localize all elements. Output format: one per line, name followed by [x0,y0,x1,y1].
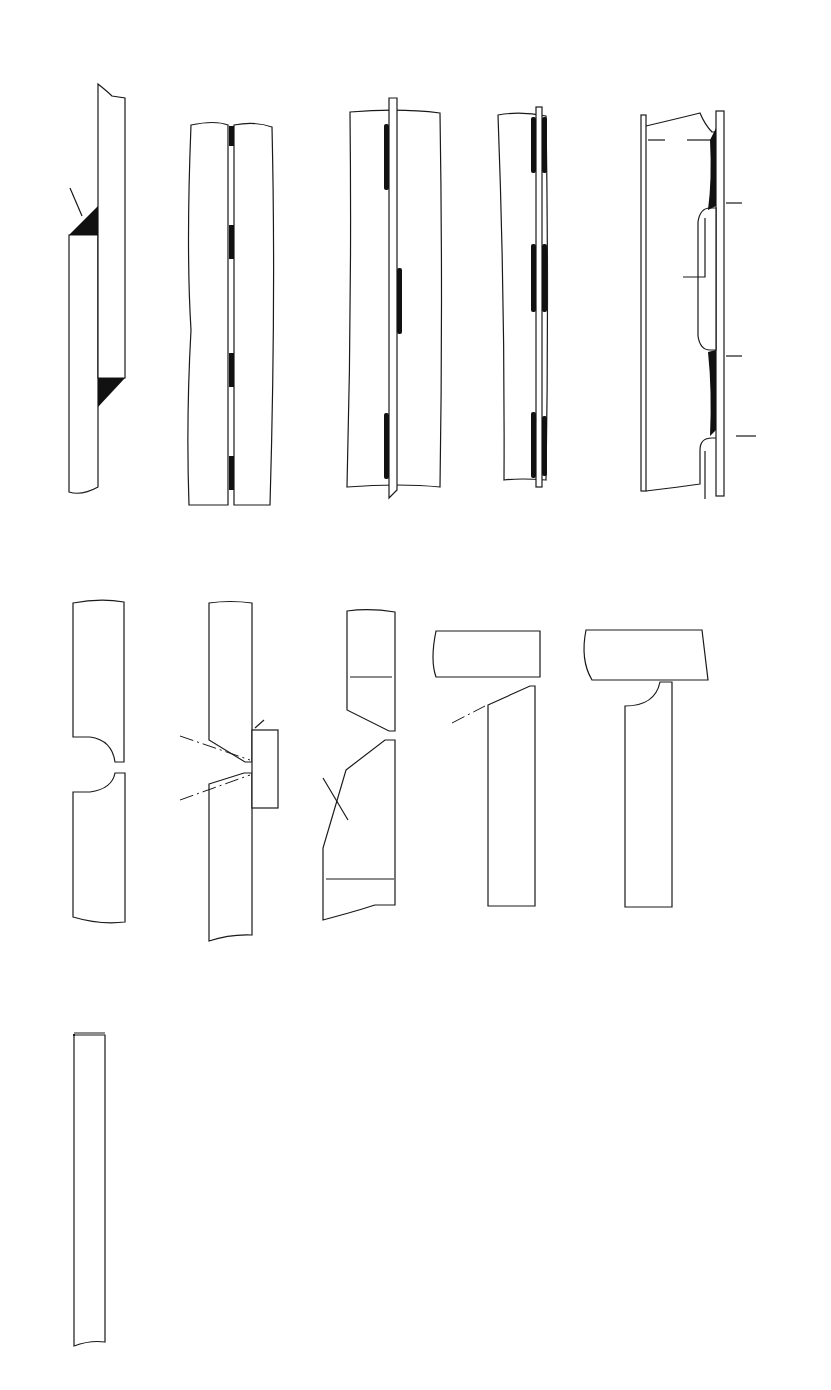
scallop-cutout [698,208,716,350]
square-diagram [74,1033,105,1346]
taper-plate-upper [347,610,395,731]
scallop-weld-bottom [708,350,716,436]
u-butt-plate-upper [73,600,124,762]
scalloped-flange-left [641,115,646,491]
lap-plate-lower [69,235,98,493]
chain-weld-3a [531,412,536,478]
staggered-web [389,98,397,498]
chain-welds-diagram [498,107,548,487]
taper-diagram [323,610,395,920]
lap-fillet-bottom [98,378,125,407]
lap-fillet-top [69,206,98,235]
chain-weld-1b [542,117,547,173]
tack-weld-4 [229,456,234,490]
tack-weld-2 [229,225,234,259]
backing-bar-diagram [180,602,278,942]
backing-plate-lower [209,773,252,941]
staggered-weld-2 [397,268,402,334]
scalloped-flange-right [716,111,724,496]
tack-plate-right [234,123,274,505]
u-butt-diagram [73,600,125,923]
fillet-leader [70,188,82,216]
chain-weld-2b [542,244,547,312]
tack-weld-leader [255,720,264,728]
fillet-vee-table [433,631,540,677]
backing-plate-upper [209,602,252,763]
chain-weld-3b [542,416,547,476]
tack-welds-diagram [188,123,274,506]
scalloped-diagram [641,111,756,499]
fillet-vee-diagram [433,631,540,906]
fillet-vee-plate [488,686,535,906]
figure-canvas [0,0,831,1390]
chain-weld-1a [531,117,536,173]
staggered-weld-3 [384,413,389,479]
chain-web [536,107,542,487]
scalloped-break [646,113,716,132]
staggered-welds-diagram [347,98,442,498]
square-plate-lower [74,1035,105,1346]
tack-weld-1 [229,126,234,146]
fillet-vee-bevel [452,706,485,723]
lap-weld-diagram [69,84,125,493]
tack-plate-left [188,123,228,506]
fillet-j-plate [625,682,672,907]
staggered-weld-1 [384,124,389,190]
tack-weld-3 [229,353,234,387]
lap-plate-upper [98,84,125,378]
fillet-j-diagram [584,630,708,907]
taper-plate-lower [323,740,395,920]
u-butt-plate-lower [73,773,125,923]
fillet-j-table [584,630,708,680]
backing-bar [252,730,278,808]
chain-weld-2a [531,244,536,312]
